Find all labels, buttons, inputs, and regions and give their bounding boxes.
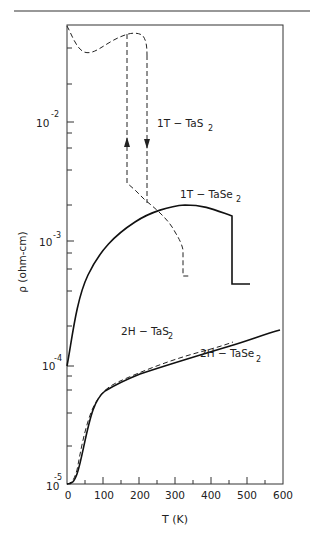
svg-text:-5: -5 <box>54 473 62 482</box>
svg-text:10: 10 <box>36 117 49 129</box>
svg-text:-3: -3 <box>53 231 61 240</box>
label-2H-TaS2: 2H − TaS <box>121 325 169 337</box>
svg-text:10: 10 <box>39 236 52 248</box>
y-ticks <box>67 48 74 446</box>
svg-text:2: 2 <box>208 124 213 133</box>
y-tick-labels: 10 -2 10 -3 10 -4 10 -5 <box>36 110 62 492</box>
svg-text:-4: -4 <box>54 354 62 363</box>
series-1T-TaSe2 <box>67 205 250 366</box>
svg-text:2: 2 <box>256 355 261 364</box>
resistivity-chart: 0 100 200 300 400 500 600 T (K) 10 -2 10… <box>0 0 310 546</box>
label-1T-TaS2: 1T − TaS <box>157 117 204 129</box>
arrow-down-icon <box>144 139 150 149</box>
svg-text:200: 200 <box>130 489 150 501</box>
label-2H-TaSe2: 2H − TaSe <box>200 347 254 359</box>
series-1T-TaS2 <box>67 26 190 276</box>
series-labels: 1T − TaS 2 1T − TaSe 2 2H − TaS 2 2H − T… <box>121 117 261 364</box>
x-tick-labels: 0 100 200 300 400 500 600 <box>65 489 293 501</box>
svg-text:0: 0 <box>65 489 72 501</box>
svg-text:400: 400 <box>201 489 221 501</box>
label-1T-TaSe2: 1T − TaSe <box>180 188 233 200</box>
svg-text:300: 300 <box>165 489 185 501</box>
x-axis-title: T (K) <box>161 513 188 526</box>
svg-text:600: 600 <box>273 489 293 501</box>
arrow-up-icon <box>124 137 130 147</box>
svg-text:2: 2 <box>236 195 241 204</box>
svg-text:-2: -2 <box>51 110 59 119</box>
svg-text:100: 100 <box>94 489 114 501</box>
y-axis-title: ρ (ohm-cm) <box>16 231 28 292</box>
x-ticks <box>85 477 265 484</box>
svg-text:2: 2 <box>168 332 173 341</box>
svg-text:500: 500 <box>237 489 257 501</box>
